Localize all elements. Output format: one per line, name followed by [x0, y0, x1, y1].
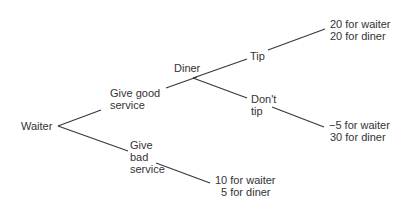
move-dont-tip-line2: tip: [251, 105, 263, 117]
edge-good-diner: [166, 77, 197, 88]
payoff-bad-waiter: 10 for waiter: [215, 174, 276, 186]
edge-diner-tip: [193, 59, 247, 78]
move-give-bad-service-line3: service: [130, 163, 165, 175]
payoff-bad-diner: 5 for diner: [221, 186, 271, 198]
edge-waiter-bad: [58, 126, 128, 151]
move-give-bad-service-line2: bad: [130, 151, 148, 163]
node-diner: Diner: [174, 62, 200, 74]
move-give-good-service-line1: Give good: [110, 87, 160, 99]
move-tip: Tip: [250, 50, 265, 62]
payoff-tip-diner: 20 for diner: [330, 30, 386, 42]
edge-diner-donttip: [193, 78, 247, 98]
edge-donttip-payoff: [272, 107, 324, 127]
move-give-bad-service-line1: Give: [130, 139, 153, 151]
payoff-donttip-diner: 30 for diner: [330, 131, 386, 143]
payoff-tip-waiter: 20 for waiter: [330, 18, 391, 30]
move-dont-tip-line1: Don't: [251, 93, 276, 105]
edge-waiter-good: [58, 110, 101, 126]
node-waiter: Waiter: [21, 120, 52, 132]
payoff-donttip-waiter: −5 for waiter: [329, 119, 390, 131]
edge-tip-payoff: [268, 29, 325, 50]
move-give-good-service-line2: service: [110, 99, 145, 111]
